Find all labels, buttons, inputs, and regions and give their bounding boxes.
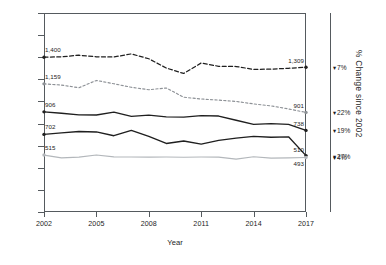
start-value-label: 515 bbox=[45, 144, 55, 151]
percent-change-value: 4% bbox=[337, 154, 347, 161]
start-value-label: 906 bbox=[45, 101, 55, 108]
end-value-label: 510 bbox=[294, 146, 304, 153]
x-tick-mark bbox=[306, 212, 307, 217]
percent-change-label: ▾7% bbox=[333, 64, 347, 71]
start-value-label: 1,400 bbox=[45, 46, 61, 53]
y-tick-mark bbox=[38, 146, 44, 147]
x-tick-mark bbox=[149, 212, 150, 217]
y-tick-mark bbox=[38, 57, 44, 58]
end-value-label: 901 bbox=[294, 102, 304, 109]
y-tick-mark bbox=[38, 79, 44, 80]
x-tick-label: 2005 bbox=[88, 220, 104, 228]
end-value-label: 738 bbox=[294, 120, 304, 127]
percent-change-value: 19% bbox=[337, 127, 350, 134]
x-tick-mark bbox=[201, 212, 202, 217]
chevron-down-icon: ▾ bbox=[333, 154, 336, 161]
start-value-label: 702 bbox=[45, 123, 55, 130]
right-axis-title: % Change since 2002 bbox=[354, 50, 363, 138]
y-tick-mark bbox=[38, 124, 44, 125]
percent-change-value: 7% bbox=[337, 64, 347, 71]
x-tick-mark bbox=[96, 212, 97, 217]
chevron-down-icon: ▾ bbox=[333, 64, 336, 71]
chevron-down-icon: ▾ bbox=[333, 109, 336, 116]
x-tick-mark bbox=[44, 212, 45, 217]
y-tick-mark bbox=[38, 13, 44, 14]
y-tick-mark bbox=[38, 35, 44, 36]
end-value-label: 493 bbox=[294, 160, 304, 167]
percent-change-label: ▾19% bbox=[333, 127, 350, 134]
percent-change-label: ▾22% bbox=[333, 109, 350, 116]
x-tick-label: 2014 bbox=[246, 220, 262, 228]
y-tick-mark bbox=[38, 190, 44, 191]
x-tick-label: 2002 bbox=[36, 220, 52, 228]
y-tick-mark bbox=[38, 168, 44, 169]
right-axis-spine bbox=[330, 13, 331, 212]
end-value-label: 1,309 bbox=[288, 57, 304, 64]
plot-area bbox=[44, 13, 306, 212]
x-tick-mark bbox=[254, 212, 255, 217]
chevron-down-icon: ▾ bbox=[333, 127, 336, 134]
x-tick-label: 2017 bbox=[298, 220, 314, 228]
line-chart: 1,8001,6001,4001,2001,0008006004002000 2… bbox=[0, 0, 386, 265]
percent-change-label: ▾4% bbox=[333, 154, 347, 161]
percent-change-value: 22% bbox=[337, 109, 350, 116]
x-axis-title: Year bbox=[44, 238, 306, 247]
x-tick-label: 2008 bbox=[141, 220, 157, 228]
y-tick-mark bbox=[38, 101, 44, 102]
start-value-label: 1,159 bbox=[45, 73, 61, 80]
x-tick-label: 2011 bbox=[193, 220, 209, 228]
